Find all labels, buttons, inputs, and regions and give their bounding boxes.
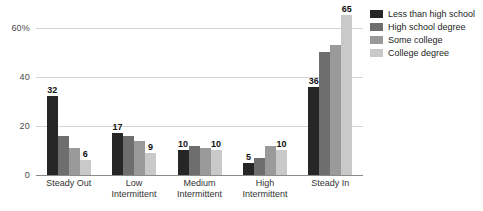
legend-label: Less than high school <box>388 9 475 19</box>
x-axis-category-label: Steady Out <box>36 178 101 200</box>
legend-swatch-icon <box>370 23 383 31</box>
bar <box>189 146 200 175</box>
x-axis-category-label: HighIntermittent <box>232 178 297 200</box>
bar: 10 <box>178 150 189 175</box>
bar-value-label: 10 <box>178 140 188 149</box>
axis-baseline: 0 <box>36 175 363 176</box>
x-axis-category-label: LowIntermittent <box>101 178 166 200</box>
bar-group: 326 <box>36 8 101 175</box>
y-axis-tick-label: 40 <box>20 72 30 82</box>
bar: 32 <box>47 96 58 175</box>
bar-value-label: 10 <box>211 140 221 149</box>
y-axis-tick-label: 60% <box>11 23 30 33</box>
bar-value-label: 10 <box>276 140 286 149</box>
bar <box>330 45 341 175</box>
legend-item[interactable]: College degree <box>370 47 482 59</box>
bar-group: 510 <box>232 8 297 175</box>
bar: 9 <box>145 153 156 175</box>
bar-value-label: 32 <box>47 86 57 95</box>
legend-item[interactable]: High school degree <box>370 21 482 33</box>
bar-group: 3665 <box>298 8 363 175</box>
y-axis-tick-label: 0 <box>25 170 30 180</box>
bar-chart: 0204060% 32617910105103665 Steady OutLow… <box>0 0 483 211</box>
bar-value-label: 6 <box>83 150 88 159</box>
bar <box>58 136 69 175</box>
bar: 36 <box>308 87 319 175</box>
x-axis-category-label: Steady In <box>298 178 363 200</box>
bar-value-label: 36 <box>309 77 319 86</box>
bar: 5 <box>243 163 254 175</box>
bar-value-label: 17 <box>113 123 123 132</box>
bar-value-label: 5 <box>246 153 251 162</box>
bar <box>123 136 134 175</box>
bar: 65 <box>341 15 352 175</box>
bar-value-label: 9 <box>148 143 153 152</box>
legend-label: Some college <box>388 35 443 45</box>
legend-item[interactable]: Some college <box>370 34 482 46</box>
bar <box>254 158 265 175</box>
x-axis-category-line: Steady In <box>298 178 363 189</box>
x-axis-category-line: Intermittent <box>167 189 232 200</box>
bar <box>319 52 330 175</box>
legend-swatch-icon <box>370 36 383 44</box>
x-axis-category-line: High <box>232 178 297 189</box>
bar: 10 <box>211 150 222 175</box>
bar-value-label: 65 <box>342 5 352 14</box>
bar: 10 <box>276 150 287 175</box>
bar: 6 <box>80 160 91 175</box>
x-axis-labels: Steady OutLowIntermittentMediumIntermitt… <box>36 178 363 200</box>
x-axis-category-label: MediumIntermittent <box>167 178 232 200</box>
y-axis-tick-label: 20 <box>20 121 30 131</box>
plot-area: 0204060% 32617910105103665 <box>36 8 363 175</box>
legend-item[interactable]: Less than high school <box>370 8 482 20</box>
x-axis-category-line: Intermittent <box>232 189 297 200</box>
legend-label: College degree <box>388 48 449 58</box>
bar-group: 1010 <box>167 8 232 175</box>
x-axis-category-line: Low <box>101 178 166 189</box>
bar-group: 179 <box>101 8 166 175</box>
bar <box>134 141 145 175</box>
x-axis-category-line: Medium <box>167 178 232 189</box>
x-axis-category-line: Steady Out <box>36 178 101 189</box>
bar: 17 <box>112 133 123 175</box>
legend-label: High school degree <box>388 22 466 32</box>
bar-groups: 32617910105103665 <box>36 8 363 175</box>
bar <box>69 148 80 175</box>
legend-swatch-icon <box>370 10 383 18</box>
chart-legend: Less than high schoolHigh school degreeS… <box>370 8 482 60</box>
legend-swatch-icon <box>370 49 383 57</box>
x-axis-category-line: Intermittent <box>101 189 166 200</box>
bar <box>265 146 276 175</box>
bar <box>200 148 211 175</box>
